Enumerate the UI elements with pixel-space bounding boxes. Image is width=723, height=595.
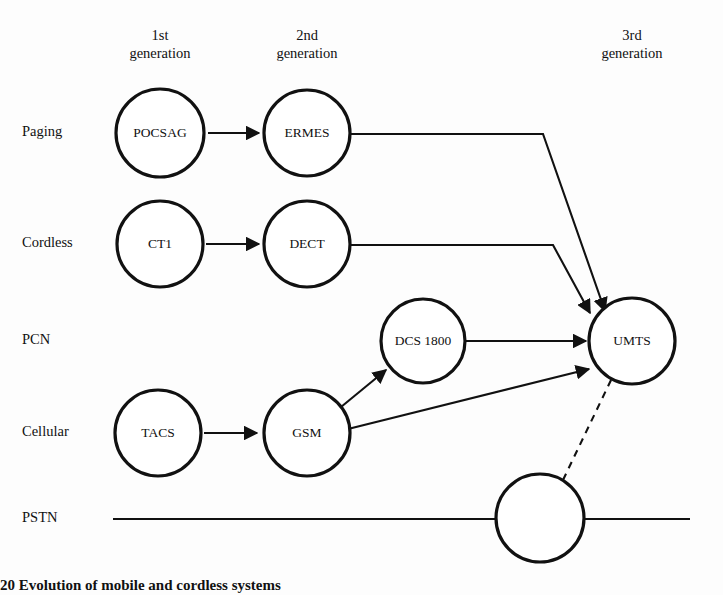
row-label-cordless: Cordless — [22, 234, 73, 250]
row-label-pcn: PCN — [22, 331, 51, 347]
column-label-gen1: 1stgeneration — [129, 27, 191, 61]
edge-gsm-umts — [348, 369, 589, 429]
figure-container: POCSAGERMESCT1DECTDCS 1800UMTSTACSGSM Pa… — [0, 0, 723, 595]
row-label-paging: Paging — [22, 123, 62, 139]
edge-ermes-umts — [350, 134, 605, 311]
node-label-pocsag: POCSAG — [133, 125, 187, 140]
node-pocsag[interactable]: POCSAG — [116, 89, 204, 177]
node-dect[interactable]: DECT — [264, 201, 350, 287]
column-labels-group: 1stgeneration2ndgeneration3rdgeneration — [129, 27, 663, 61]
nodes-group: POCSAGERMESCT1DECTDCS 1800UMTSTACSGSM — [115, 89, 675, 562]
edge-gsm-dcs1800 — [341, 370, 386, 407]
column-label-line1-gen2: 2nd — [296, 27, 319, 43]
node-ermes[interactable]: ERMES — [264, 90, 350, 176]
node-tacs[interactable]: TACS — [115, 390, 201, 476]
edge-pstn-umts — [563, 378, 612, 480]
node-pstnnode[interactable] — [496, 474, 584, 562]
column-label-line2-gen1: generation — [129, 45, 191, 61]
edge-dect-umts — [350, 245, 590, 313]
figure-caption: 20 Evolution of mobile and cordless syst… — [0, 577, 281, 593]
column-label-gen3: 3rdgeneration — [601, 27, 663, 61]
row-label-cellular: Cellular — [22, 423, 69, 439]
column-label-line1-gen1: 1st — [152, 27, 169, 43]
node-label-tacs: TACS — [141, 425, 174, 440]
row-label-pstn: PSTN — [22, 509, 58, 525]
node-gsm[interactable]: GSM — [264, 390, 350, 476]
node-label-umts: UMTS — [613, 333, 651, 348]
node-label-ermes: ERMES — [284, 125, 329, 140]
node-circle-pstnnode — [496, 474, 584, 562]
column-label-gen2: 2ndgeneration — [276, 27, 338, 61]
column-label-line2-gen2: generation — [276, 45, 338, 61]
column-label-line1-gen3: 3rd — [622, 27, 642, 43]
node-umts[interactable]: UMTS — [589, 298, 675, 384]
node-label-ct1: CT1 — [148, 236, 172, 251]
evolution-diagram: POCSAGERMESCT1DECTDCS 1800UMTSTACSGSM Pa… — [0, 0, 723, 595]
node-label-gsm: GSM — [292, 425, 321, 440]
row-labels-group: PagingCordlessPCNCellularPSTN — [22, 123, 73, 525]
node-label-dect: DECT — [289, 236, 325, 251]
node-dcs1800[interactable]: DCS 1800 — [381, 299, 465, 383]
column-label-line2-gen3: generation — [601, 45, 663, 61]
node-label-dcs1800: DCS 1800 — [395, 333, 452, 348]
node-ct1[interactable]: CT1 — [117, 201, 203, 287]
